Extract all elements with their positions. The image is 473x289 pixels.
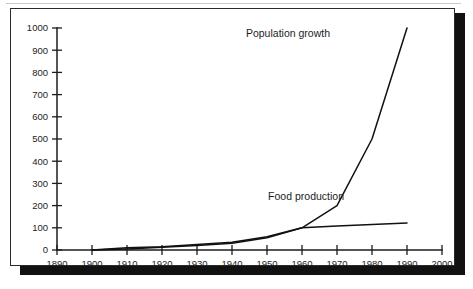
series-annotation-labels: Population growthFood production — [246, 27, 344, 202]
series-line-population-growth — [92, 28, 407, 250]
x-tick-label: 1900 — [81, 258, 102, 266]
x-tick-label: 1910 — [116, 258, 137, 266]
panel-shadow-bottom — [20, 265, 465, 275]
top-hairline-decoration — [6, 3, 461, 4]
data-series-lines — [92, 28, 407, 250]
x-tick-label: 1940 — [221, 258, 242, 266]
y-tick-label: 0 — [43, 244, 48, 255]
x-tick-label: 1980 — [361, 258, 382, 266]
y-axis-tick-labels: 01002003004005006007008009001000 — [27, 22, 48, 255]
y-tick-label: 300 — [32, 178, 48, 189]
y-tick-label: 700 — [32, 89, 48, 100]
y-tick-label: 500 — [32, 133, 48, 144]
y-tick-label: 200 — [32, 200, 48, 211]
y-tick-label: 400 — [32, 156, 48, 167]
series-line-food-production — [92, 223, 407, 250]
y-tick-label: 1000 — [27, 22, 48, 33]
chart-figure: 01002003004005006007008009001000 1890190… — [0, 0, 473, 289]
x-tick-label: 1930 — [186, 258, 207, 266]
x-tick-label: 1990 — [396, 258, 417, 266]
x-tick-label: 1970 — [326, 258, 347, 266]
x-axis-tick-labels: 1890190019101920193019401950196019701980… — [46, 258, 452, 266]
x-tick-label: 1950 — [256, 258, 277, 266]
y-tick-label: 600 — [32, 111, 48, 122]
panel-shadow-right — [455, 13, 465, 275]
x-tick-label: 1960 — [291, 258, 312, 266]
x-tick-label: 1920 — [151, 258, 172, 266]
y-tick-label: 100 — [32, 222, 48, 233]
y-tick-label: 800 — [32, 67, 48, 78]
y-tick-label: 900 — [32, 45, 48, 56]
annotation-food-production: Food production — [268, 190, 344, 202]
x-tick-label: 1890 — [46, 258, 67, 266]
annotation-population-growth: Population growth — [246, 27, 330, 39]
line-chart: 01002003004005006007008009001000 1890190… — [10, 8, 455, 266]
x-tick-label: 2000 — [431, 258, 452, 266]
